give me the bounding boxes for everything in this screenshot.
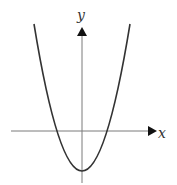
y-axis-label: y bbox=[76, 7, 86, 23]
y-axis-arrow-icon bbox=[77, 27, 87, 36]
parabola-diagram: x y bbox=[0, 0, 177, 185]
diagram-svg: x y bbox=[0, 0, 177, 185]
x-axis-label: x bbox=[158, 125, 166, 141]
x-axis-arrow-icon bbox=[148, 126, 157, 136]
